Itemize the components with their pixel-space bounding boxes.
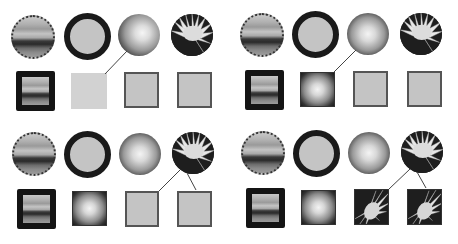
swatch-flower[interactable] (171, 14, 213, 56)
panel-bottom-left (0, 122, 229, 244)
swatch-stripes[interactable] (241, 131, 285, 175)
flower-icon (355, 190, 389, 225)
swatch-radial[interactable] (118, 14, 160, 56)
swatch-gray[interactable] (293, 130, 340, 177)
panel-top-right (229, 0, 458, 122)
flower-icon (171, 14, 213, 56)
target-square-1[interactable] (245, 70, 284, 110)
target-square-3[interactable] (125, 191, 159, 227)
target-square-1[interactable] (16, 71, 55, 111)
flower-icon (408, 190, 442, 225)
target-square-3[interactable] (353, 71, 388, 107)
target-square-2[interactable] (71, 73, 107, 109)
target-square-2[interactable] (72, 191, 107, 226)
swatch-radial[interactable] (348, 132, 390, 174)
target-square-2[interactable] (300, 72, 335, 107)
swatch-flower[interactable] (400, 13, 442, 55)
swatch-gray[interactable] (64, 131, 111, 178)
target-square-3[interactable] (124, 72, 159, 108)
panel-bottom-right (229, 122, 458, 244)
target-square-3[interactable] (354, 189, 389, 225)
target-square-4[interactable] (177, 72, 212, 108)
swatch-flower[interactable] (172, 132, 214, 174)
swatch-gray[interactable] (292, 11, 339, 58)
target-square-1[interactable] (17, 189, 56, 229)
panel-top-left (0, 0, 229, 122)
swatch-flower[interactable] (401, 131, 443, 173)
target-square-4[interactable] (407, 189, 442, 225)
target-square-4[interactable] (407, 71, 442, 107)
flower-icon (400, 13, 442, 55)
swatch-stripes[interactable] (12, 132, 56, 176)
target-square-4[interactable] (177, 191, 212, 227)
swatch-radial[interactable] (119, 133, 161, 175)
swatch-stripes[interactable] (240, 13, 284, 57)
target-square-1[interactable] (246, 188, 285, 228)
swatch-gray[interactable] (64, 13, 111, 60)
swatch-radial[interactable] (347, 13, 389, 55)
swatch-stripes[interactable] (11, 15, 55, 59)
flower-icon (401, 131, 443, 173)
flower-icon (172, 132, 214, 174)
target-square-2[interactable] (301, 190, 336, 225)
